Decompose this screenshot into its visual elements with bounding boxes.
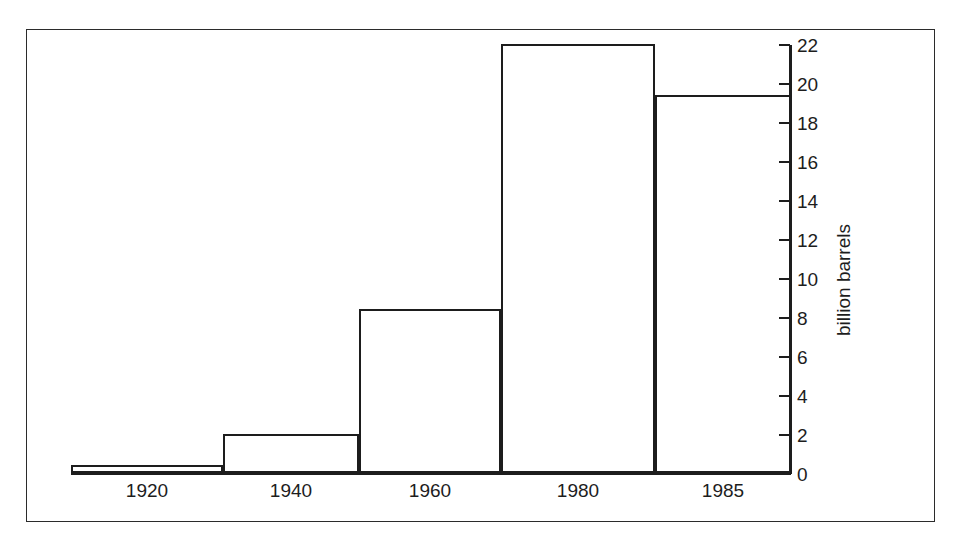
x-tick-label-1940: 1940 xyxy=(270,480,312,502)
bar-1985[interactable] xyxy=(655,95,791,473)
y-tick-4 xyxy=(779,395,790,397)
y-tick-16 xyxy=(779,161,790,163)
bar-1960[interactable] xyxy=(359,309,501,473)
y-tick-label-6: 6 xyxy=(797,348,808,367)
y-tick-6 xyxy=(779,356,790,358)
y-tick-label-10: 10 xyxy=(797,270,818,289)
y-axis-title: billion barrels xyxy=(833,0,855,160)
bar-1980[interactable] xyxy=(501,44,655,473)
y-tick-22 xyxy=(779,44,790,46)
y-tick-label-16: 16 xyxy=(797,153,818,172)
y-tick-label-22: 22 xyxy=(797,36,818,55)
y-tick-12 xyxy=(779,239,790,241)
y-tick-label-12: 12 xyxy=(797,231,818,250)
y-tick-20 xyxy=(779,83,790,85)
y-tick-label-0: 0 xyxy=(797,465,808,484)
y-tick-0 xyxy=(779,473,790,475)
y-tick-label-14: 14 xyxy=(797,192,818,211)
x-tick-label-1985: 1985 xyxy=(702,480,744,502)
y-axis: 22 20 18 16 14 12 10 8 6 4 2 0 xyxy=(789,30,792,523)
y-tick-label-2: 2 xyxy=(797,426,808,445)
y-tick-label-4: 4 xyxy=(797,387,808,406)
x-tick-label-1980: 1980 xyxy=(557,480,599,502)
y-tick-2 xyxy=(779,434,790,436)
y-axis-title-text: billion barrels xyxy=(833,160,855,400)
y-tick-10 xyxy=(779,278,790,280)
y-tick-label-8: 8 xyxy=(797,309,808,328)
x-tick-label-1920: 1920 xyxy=(126,480,168,502)
y-axis-line xyxy=(789,45,792,474)
y-tick-8 xyxy=(779,317,790,319)
x-tick-label-1960: 1960 xyxy=(409,480,451,502)
y-tick-14 xyxy=(779,200,790,202)
chart-figure-frame: 22 20 18 16 14 12 10 8 6 4 2 0 xyxy=(26,29,935,522)
y-tick-label-18: 18 xyxy=(797,114,818,133)
bar-1940[interactable] xyxy=(223,434,359,473)
x-axis-baseline xyxy=(71,473,791,475)
y-tick-18 xyxy=(779,122,790,124)
plot-area: 22 20 18 16 14 12 10 8 6 4 2 0 xyxy=(27,30,936,523)
y-tick-label-20: 20 xyxy=(797,75,818,94)
bar-1920[interactable] xyxy=(71,465,223,473)
